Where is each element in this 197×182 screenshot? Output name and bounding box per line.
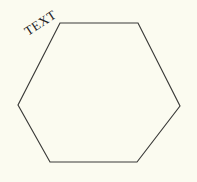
hexagon-text-label: TEXT	[21, 7, 58, 39]
hexagon-shape	[18, 23, 180, 162]
figure-canvas: TEXT	[0, 0, 197, 182]
hexagon-figure: TEXT	[0, 0, 197, 182]
